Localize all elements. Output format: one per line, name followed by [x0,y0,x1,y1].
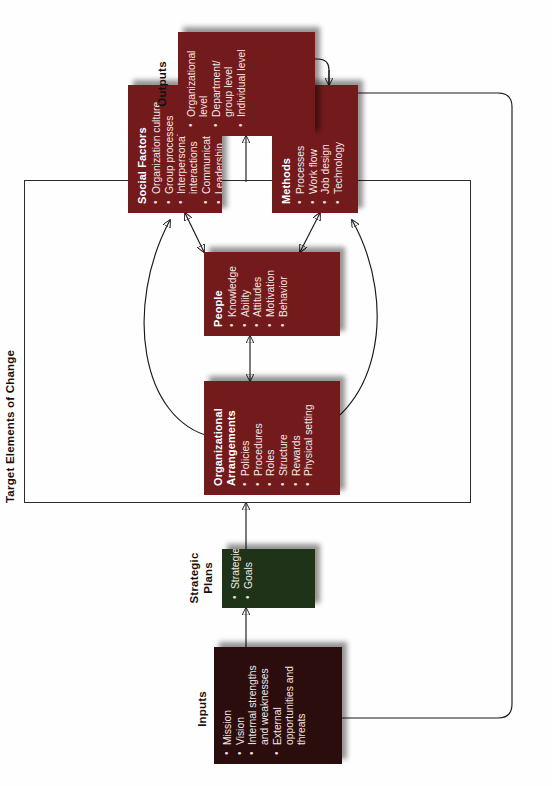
diagram-canvas: Target Elements of Change Inputs Mission… [0,0,552,786]
list-item: Physical setting [303,390,315,486]
list-item: Ability [240,261,252,327]
list-item: Procedures [253,390,265,486]
list-item: Job design [320,94,332,204]
list-item: Strategies [230,558,242,599]
organizational-arrangements-box[interactable]: OrganizationalArrangements Policies Proc… [204,381,340,495]
orgarr-title-line1: Organizational [212,408,224,486]
strategic-plans-box[interactable]: Strategies Goals [222,549,315,608]
people-box[interactable]: People Knowledge Ability Attitudes Motiv… [204,252,340,336]
list-item: Technology [333,94,345,204]
people-title: People [212,261,225,327]
list-item: Knowledge [227,261,239,327]
strategic-plans-caption-line1: Strategic [188,553,200,604]
strategic-plans-list: Strategies Goals [230,558,255,599]
list-item: Mission [222,656,234,755]
list-item: Attitudes [252,261,264,327]
list-item: Rewards [291,390,303,486]
strategic-plans-caption: StrategicPlans [188,533,216,623]
list-item: Goals [243,558,255,599]
orgarr-title-line2: Arrangements [225,410,237,486]
people-list: Knowledge Ability Attitudes Motivation B… [227,261,290,327]
list-item: Motivation [265,261,277,327]
list-item: Individual level [236,41,248,127]
target-elements-label: Target Elements of Change [4,350,16,503]
list-item: Behavior [278,261,290,327]
inputs-box[interactable]: Mission Vision Internal strengths and we… [214,647,342,764]
strategic-plans-caption-line2: Plans [202,562,214,594]
list-item: Organizational level [186,41,210,127]
list-item: Policies [240,390,252,486]
rotated-diagram-content: Target Elements of Change Inputs Mission… [0,0,552,786]
list-item: External opportunities and threats [272,656,308,755]
list-item: Internal strengths and weaknesses [247,656,271,755]
inputs-caption: Inputs [196,654,210,764]
list-item: Vision [235,656,247,755]
social-factors-title: Social Factors [136,94,149,204]
list-item: Roles [265,390,277,486]
organizational-arrangements-title: OrganizationalArrangements [212,390,238,486]
outputs-caption: Outputs [156,32,170,136]
outputs-list: Organizational level Department/ group l… [186,41,248,127]
outputs-box[interactable]: Organizational level Department/ group l… [178,32,315,136]
list-item: Structure [278,390,290,486]
organizational-arrangements-list: Policies Procedures Roles Structure Rewa… [240,390,315,486]
list-item: Department/ group level [211,41,235,127]
inputs-list: Mission Vision Internal strengths and we… [222,656,308,755]
